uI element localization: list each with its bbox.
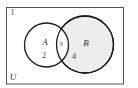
region-a-only-count: 2 [42,51,46,60]
region-intersection-count: 3 [59,40,62,47]
region-outside-count: 1 [11,8,15,17]
venn-diagram-canvas: A B 1 2 3 4 U [0,0,138,88]
set-b-label: B [83,38,89,48]
universe-label: U [10,72,17,82]
venn-diagram-figure: A B 1 2 3 4 U [0,0,138,88]
set-a-label: A [41,37,48,47]
region-b-only-count: 4 [72,52,76,61]
